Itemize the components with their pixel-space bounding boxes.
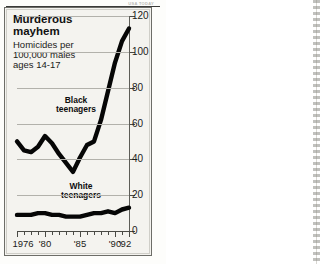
x-axis-tick-label: '85 xyxy=(74,238,86,249)
x-axis-tick-label: 1976 xyxy=(12,238,33,249)
x-axis-tick-label: '80 xyxy=(39,238,51,249)
x-axis-tick xyxy=(17,232,18,237)
x-axis-tick xyxy=(80,232,81,237)
gridline xyxy=(17,88,129,89)
x-axis-tick xyxy=(24,232,25,235)
y-axis-tick-label: 120 xyxy=(132,10,149,21)
x-axis-tick xyxy=(38,232,39,235)
gridline xyxy=(17,52,129,53)
gridline xyxy=(17,159,129,160)
gridline xyxy=(17,16,129,17)
source-tag: USA TODAY xyxy=(128,1,154,6)
x-axis-tick xyxy=(45,232,46,237)
series-line xyxy=(17,208,129,217)
y-axis-tick-label: 60 xyxy=(132,118,143,129)
x-axis-tick xyxy=(31,232,32,235)
plot-area: 1976'80'85'90'92 xyxy=(17,16,129,231)
x-axis-tick-label: '92 xyxy=(119,238,131,249)
y-axis-tick-label: 80 xyxy=(132,82,143,93)
series-line xyxy=(17,29,129,172)
y-axis-tick-label: 20 xyxy=(132,189,143,200)
y-axis-tick-label: 0 xyxy=(132,225,138,236)
x-axis-tick xyxy=(115,232,116,237)
y-axis-tick-label: 100 xyxy=(132,46,149,57)
x-axis-tick xyxy=(122,232,123,235)
x-axis-tick xyxy=(94,232,95,235)
x-axis-tick xyxy=(52,232,53,235)
x-axis-tick xyxy=(108,232,109,235)
x-axis-tick xyxy=(59,232,60,235)
gridline xyxy=(17,195,129,196)
x-axis-tick xyxy=(66,232,67,235)
x-axis-tick xyxy=(101,232,102,235)
chart-figure: USA TODAY Murderous mayhem Homicides per… xyxy=(0,0,166,264)
x-axis-tick xyxy=(73,232,74,235)
x-axis-tick xyxy=(129,232,130,237)
x-axis-tick xyxy=(87,232,88,235)
gridline xyxy=(17,124,129,125)
y-axis-tick-label: 40 xyxy=(132,153,143,164)
